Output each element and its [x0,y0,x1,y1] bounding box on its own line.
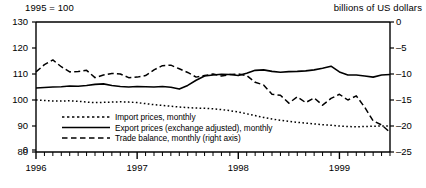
legend-label-0: Import prices, monthly [115,112,196,122]
legend-swatches [62,117,110,138]
y-tick-label: 100 [2,94,28,105]
y-tick-label: 130 [2,16,28,27]
y2-tick-label: –20 [396,120,426,131]
y-axis-break-label: 0 [2,144,28,155]
y2-tick-label: –10 [396,68,426,79]
y-tick-label: 110 [2,68,28,79]
x-tick-label: 1997 [112,162,162,173]
y-tick-label: 120 [2,42,28,53]
x-tick-label: 1998 [213,162,263,173]
plot-area [0,0,426,188]
y2-tick-label: –5 [396,42,426,53]
data-series [36,60,390,132]
y2-tick-label: 0 [396,16,426,27]
x-tick-label: 1996 [11,162,61,173]
series-line-1 [36,66,390,89]
trade-chart: 1995 = 100 billions of US dollars 809010… [0,0,426,188]
x-tick-label: 1999 [314,162,364,173]
y-tick-label: 90 [2,120,28,131]
y2-tick-label: –15 [396,94,426,105]
legend-label-1: Export prices (exchange adjusted), month… [115,123,272,133]
y2-tick-label: –25 [396,146,426,157]
legend-label-2: Trade balance, monthly (right axis) [115,133,241,143]
